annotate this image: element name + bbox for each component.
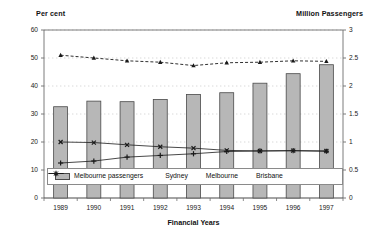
legend-label-melbourne: Melbourne xyxy=(206,173,238,180)
legend-label-sydney: Sydney xyxy=(165,173,188,180)
right-tick-0: 0 xyxy=(349,194,371,201)
plot-area xyxy=(0,0,387,236)
legend-item-melbourne: Melbourne xyxy=(206,173,238,180)
x-tick-1989: 1989 xyxy=(44,204,78,211)
line-plus-marker-icon xyxy=(48,169,64,178)
legend-item-melbourne-passengers: Melbourne passengers xyxy=(55,173,143,180)
x-axis-title: Financial Years xyxy=(0,218,387,227)
right-tick-2: 2 xyxy=(349,82,371,89)
right-tick-3: 3 xyxy=(349,26,371,33)
legend-item-brisbane: Brisbane xyxy=(256,173,283,180)
legend-item-sydney: Sydney xyxy=(165,173,188,180)
legend-label-brisbane: Brisbane xyxy=(256,173,283,180)
left-tick-20: 20 xyxy=(18,138,38,145)
left-tick-10: 10 xyxy=(18,166,38,173)
left-tick-50: 50 xyxy=(18,54,38,61)
right-tick-1.5: 1.5 xyxy=(349,110,371,117)
legend-label-melbourne-passengers: Melbourne passengers xyxy=(74,173,143,180)
x-tick-1990: 1990 xyxy=(77,204,111,211)
x-tick-1994: 1994 xyxy=(210,204,244,211)
chart-legend: Melbourne passengers Sydney Melbourne xyxy=(47,168,343,185)
x-tick-1997: 1997 xyxy=(309,204,343,211)
x-tick-1995: 1995 xyxy=(243,204,277,211)
left-tick-60: 60 xyxy=(18,26,38,33)
chart-container: Per cent Million Passengers 010203040506… xyxy=(0,0,387,236)
right-tick-0.5: 0.5 xyxy=(349,166,371,173)
series-line-sydney xyxy=(58,53,328,67)
x-tick-1993: 1993 xyxy=(177,204,211,211)
left-tick-40: 40 xyxy=(18,82,38,89)
right-tick-1: 1 xyxy=(349,138,371,145)
left-tick-0: 0 xyxy=(18,194,38,201)
right-tick-2.5: 2.5 xyxy=(349,54,371,61)
x-tick-1991: 1991 xyxy=(110,204,144,211)
x-tick-1996: 1996 xyxy=(276,204,310,211)
left-tick-30: 30 xyxy=(18,110,38,117)
x-tick-1992: 1992 xyxy=(143,204,177,211)
